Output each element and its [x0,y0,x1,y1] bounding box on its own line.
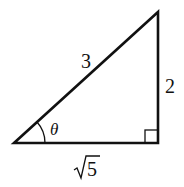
opposite-side-label: 2 [165,75,175,97]
adjacent-side-label: 5 [74,156,100,180]
triangle [14,12,158,143]
right-angle-marker [145,130,158,143]
angle-theta-label: θ [50,120,58,139]
angle-arc [37,122,45,143]
radicand: 5 [87,158,97,180]
hypotenuse-label: 3 [81,50,91,72]
triangle-diagram: θ 3 2 5 [0,0,184,187]
